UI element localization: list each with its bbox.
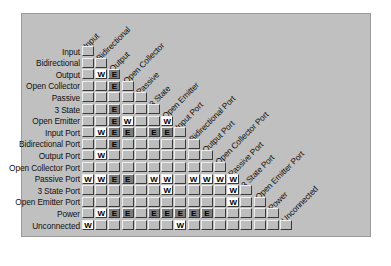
- matrix-cell[interactable]: [214, 162, 226, 172]
- matrix-cell[interactable]: W: [82, 220, 94, 230]
- matrix-cell[interactable]: E: [174, 208, 186, 218]
- matrix-cell[interactable]: [135, 127, 147, 137]
- matrix-cell[interactable]: E: [161, 127, 173, 137]
- matrix-cell[interactable]: E: [108, 208, 120, 218]
- matrix-cell[interactable]: [148, 150, 160, 160]
- matrix-cell[interactable]: E: [122, 174, 134, 184]
- matrix-cell[interactable]: [122, 104, 134, 114]
- matrix-cell[interactable]: [82, 46, 94, 56]
- matrix-cell[interactable]: W: [227, 185, 239, 195]
- matrix-cell[interactable]: [82, 81, 94, 91]
- matrix-cell[interactable]: [122, 197, 134, 207]
- matrix-cell[interactable]: W: [95, 208, 107, 218]
- matrix-cell[interactable]: [201, 150, 213, 160]
- matrix-cell[interactable]: [240, 220, 252, 230]
- matrix-cell[interactable]: [267, 220, 279, 230]
- matrix-cell[interactable]: W: [214, 174, 226, 184]
- matrix-cell[interactable]: [188, 185, 200, 195]
- matrix-cell[interactable]: [82, 92, 94, 102]
- matrix-cell[interactable]: [135, 162, 147, 172]
- matrix-cell[interactable]: [148, 104, 160, 114]
- matrix-cell[interactable]: [135, 104, 147, 114]
- matrix-cell[interactable]: [174, 185, 186, 195]
- matrix-cell[interactable]: [188, 162, 200, 172]
- matrix-cell[interactable]: [95, 104, 107, 114]
- matrix-cell[interactable]: [188, 220, 200, 230]
- matrix-cell[interactable]: [254, 197, 266, 207]
- matrix-cell[interactable]: W: [82, 174, 94, 184]
- matrix-cell[interactable]: [188, 150, 200, 160]
- matrix-cell[interactable]: W: [95, 127, 107, 137]
- matrix-cell[interactable]: W: [122, 116, 134, 126]
- matrix-cell[interactable]: [95, 197, 107, 207]
- matrix-cell[interactable]: [108, 185, 120, 195]
- matrix-cell[interactable]: E: [122, 127, 134, 137]
- matrix-cell[interactable]: W: [95, 174, 107, 184]
- matrix-cell[interactable]: E: [122, 208, 134, 218]
- matrix-cell[interactable]: [82, 116, 94, 126]
- matrix-cell[interactable]: E: [148, 208, 160, 218]
- matrix-cell[interactable]: [161, 220, 173, 230]
- matrix-cell[interactable]: [82, 69, 94, 79]
- matrix-cell[interactable]: W: [227, 197, 239, 207]
- matrix-cell[interactable]: [82, 162, 94, 172]
- matrix-cell[interactable]: [240, 197, 252, 207]
- matrix-cell[interactable]: [227, 208, 239, 218]
- matrix-cell[interactable]: [148, 116, 160, 126]
- matrix-cell[interactable]: [240, 185, 252, 195]
- matrix-cell[interactable]: [108, 92, 120, 102]
- matrix-cell[interactable]: W: [161, 185, 173, 195]
- matrix-cell[interactable]: [148, 185, 160, 195]
- matrix-cell[interactable]: [161, 162, 173, 172]
- matrix-cell[interactable]: E: [108, 174, 120, 184]
- matrix-cell[interactable]: W: [148, 174, 160, 184]
- matrix-cell[interactable]: W: [161, 174, 173, 184]
- matrix-cell[interactable]: [161, 150, 173, 160]
- matrix-cell[interactable]: [240, 208, 252, 218]
- matrix-cell[interactable]: [214, 185, 226, 195]
- matrix-cell[interactable]: [201, 185, 213, 195]
- matrix-cell[interactable]: [95, 139, 107, 149]
- matrix-cell[interactable]: [82, 139, 94, 149]
- matrix-cell[interactable]: [135, 220, 147, 230]
- matrix-cell[interactable]: [201, 197, 213, 207]
- matrix-cell[interactable]: [267, 208, 279, 218]
- matrix-cell[interactable]: [174, 150, 186, 160]
- matrix-cell[interactable]: [95, 92, 107, 102]
- matrix-cell[interactable]: [161, 139, 173, 149]
- matrix-cell[interactable]: [82, 208, 94, 218]
- matrix-cell[interactable]: [122, 220, 134, 230]
- matrix-cell[interactable]: [135, 208, 147, 218]
- matrix-cell[interactable]: [122, 92, 134, 102]
- matrix-cell[interactable]: [95, 58, 107, 68]
- matrix-cell[interactable]: [82, 197, 94, 207]
- matrix-cell[interactable]: E: [161, 208, 173, 218]
- matrix-cell[interactable]: E: [108, 116, 120, 126]
- matrix-cell[interactable]: [108, 197, 120, 207]
- matrix-cell[interactable]: W: [95, 69, 107, 79]
- matrix-cell[interactable]: [174, 127, 186, 137]
- matrix-cell[interactable]: E: [201, 208, 213, 218]
- matrix-cell[interactable]: [174, 174, 186, 184]
- matrix-cell[interactable]: [108, 220, 120, 230]
- matrix-cell[interactable]: [254, 208, 266, 218]
- matrix-cell[interactable]: [280, 220, 292, 230]
- matrix-cell[interactable]: [82, 58, 94, 68]
- matrix-cell[interactable]: [135, 150, 147, 160]
- matrix-cell[interactable]: [95, 116, 107, 126]
- matrix-cell[interactable]: W: [201, 174, 213, 184]
- matrix-cell[interactable]: W: [95, 150, 107, 160]
- matrix-cell[interactable]: [161, 197, 173, 207]
- matrix-cell[interactable]: E: [108, 139, 120, 149]
- matrix-cell[interactable]: [135, 139, 147, 149]
- matrix-cell[interactable]: [174, 162, 186, 172]
- matrix-cell[interactable]: [135, 116, 147, 126]
- matrix-cell[interactable]: [174, 197, 186, 207]
- matrix-cell[interactable]: [174, 139, 186, 149]
- matrix-cell[interactable]: [201, 162, 213, 172]
- matrix-cell[interactable]: [82, 150, 94, 160]
- matrix-cell[interactable]: [135, 185, 147, 195]
- matrix-cell[interactable]: W: [188, 174, 200, 184]
- matrix-cell[interactable]: E: [188, 208, 200, 218]
- matrix-cell[interactable]: [148, 162, 160, 172]
